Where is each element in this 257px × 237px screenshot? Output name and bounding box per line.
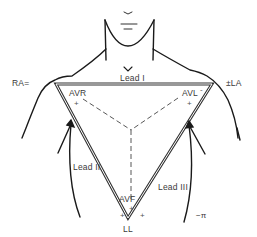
ll-right-plus-sign: + (140, 212, 145, 220)
electrode-la-label: ±LA (226, 79, 242, 88)
electrode-ra-label: RA= (12, 79, 29, 88)
avr-plus-sign: + (74, 100, 79, 108)
avl-label: AVL (182, 89, 198, 98)
lead-iii-arrow-shaft (184, 125, 192, 222)
ll-left-plus-sign: + (120, 212, 125, 220)
lead-iii-label: Lead III (158, 183, 188, 192)
avf-label: AVF (119, 195, 136, 204)
avr-axis (83, 99, 131, 130)
electrode-ll-label: LL (123, 225, 133, 234)
nose-mark (124, 12, 132, 14)
avl-minus-sign: - (200, 86, 203, 94)
right-shoulder-arm (22, 49, 106, 138)
avl-axis (131, 98, 178, 130)
lead-i-label: Lead I (120, 74, 145, 83)
collarbone-notch (124, 67, 132, 71)
lead-ii-label: Lead II (73, 163, 100, 172)
lead-iii-arrow (184, 121, 205, 222)
neck-right (153, 20, 154, 60)
lead-ii-arrow-head (67, 120, 74, 127)
avl-plus-sign: + (187, 100, 192, 108)
ground-symbol: −π (196, 212, 207, 220)
einthoven-triangle-diagram: RA= ±LA LL Lead I Lead II Lead III AVR A… (0, 0, 257, 237)
avr-label: AVR (69, 89, 86, 98)
neck-left (105, 20, 106, 60)
avf-plus-sign: + (129, 205, 134, 213)
